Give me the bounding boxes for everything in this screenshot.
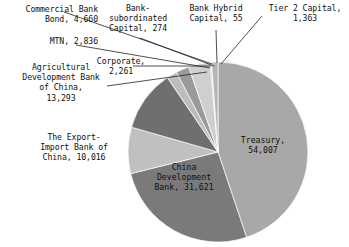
label-tier2-capital: Tier 2 Capital, 1,363: [262, 3, 348, 23]
label-corporate: Corporate, 2,261: [92, 56, 150, 76]
label-commercial-bank-bond: Commercial Bank Bond, 4,660: [2, 4, 98, 24]
slice-label-china-development-bank: China Development Bank, 31,621: [140, 162, 228, 193]
slice-label-treasury: Treasury, 54,007: [228, 135, 298, 155]
label-mtn: MTN, 2,836: [2, 36, 98, 46]
leader-line-bank-subordinated-capital: [140, 38, 214, 66]
label-bank-subordinated-capital: Bank- subordinated Capital, 274: [100, 3, 176, 34]
leader-line-bank-hybrid-capital: [216, 30, 217, 63]
label-export-import-bank: The Export- Import Bank of China, 10,016: [22, 132, 126, 163]
label-bank-hybrid-capital: Bank Hybrid Capital, 55: [176, 3, 256, 23]
pie-chart: Commercial Bank Bond, 4,660 MTN, 2,836 B…: [0, 0, 349, 247]
